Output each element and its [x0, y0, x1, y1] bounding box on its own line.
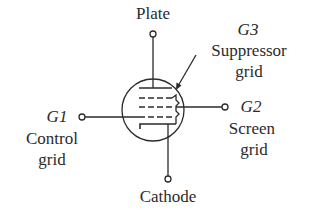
cathode-label: Cathode — [126, 188, 210, 206]
g2-terminal — [222, 104, 228, 110]
g1-terminal — [79, 114, 85, 120]
g2-name-label-line1: Screen — [220, 120, 284, 138]
g1-id-label: G1 — [40, 108, 74, 126]
plate-label: Plate — [130, 5, 176, 23]
suppressor-connector — [172, 95, 179, 124]
pentode-diagram: Plate G3 Suppressor grid G1 Control grid… — [0, 0, 313, 217]
g1-name-label-line1: Control — [14, 130, 90, 148]
plate-terminal — [150, 31, 156, 37]
g2-id-label: G2 — [234, 98, 268, 116]
g2-name-label-line2: grid — [232, 141, 276, 159]
cathode-terminal — [165, 176, 171, 182]
g3-name-label-line1: Suppressor — [200, 42, 298, 60]
g3-name-label-line2: grid — [220, 63, 278, 81]
g1-name-label-line2: grid — [30, 151, 74, 169]
g3-pointer-line — [178, 55, 196, 86]
cathode-electrode — [140, 124, 176, 129]
g3-id-label: G3 — [228, 21, 268, 39]
